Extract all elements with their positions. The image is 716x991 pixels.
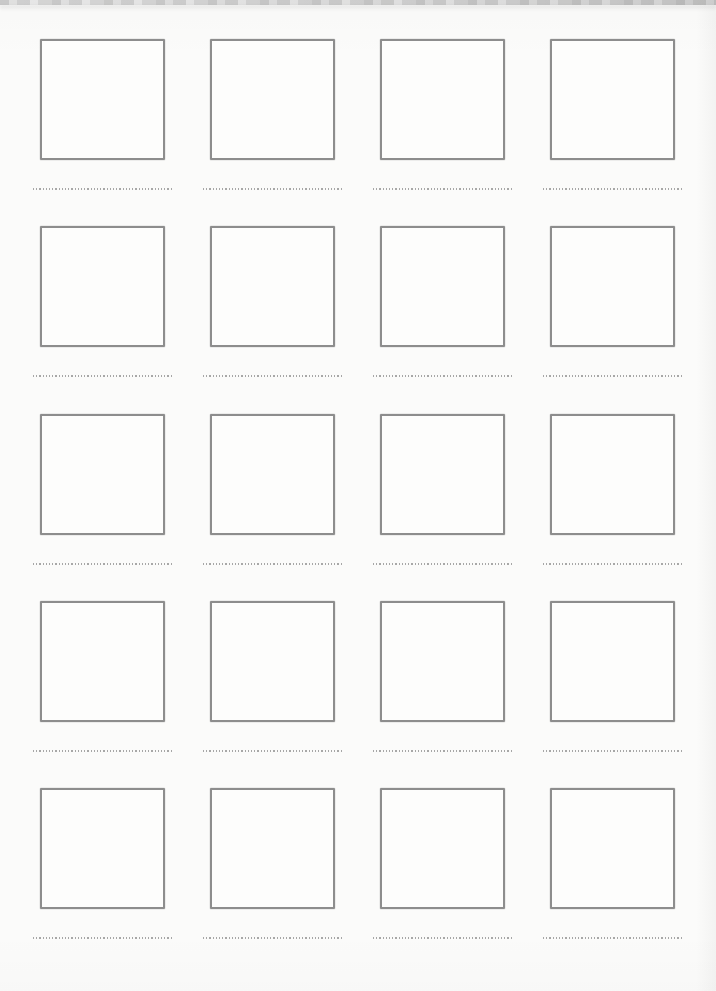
frame-cell (543, 39, 682, 190)
frame-box (40, 39, 165, 160)
frame-cell (203, 788, 342, 939)
caption-dotted-line (33, 375, 172, 377)
frame-cell (373, 226, 512, 377)
frame-box (380, 788, 505, 909)
frame-box (40, 788, 165, 909)
caption-dotted-line (543, 188, 682, 190)
caption-dotted-line (543, 937, 682, 939)
scanned-template-page (0, 0, 716, 991)
frame-cell (33, 414, 172, 565)
caption-dotted-line (543, 750, 682, 752)
frame-box (380, 414, 505, 535)
frame-box (380, 39, 505, 160)
frame-cell (33, 788, 172, 939)
frame-cell (33, 601, 172, 752)
frame-box (40, 414, 165, 535)
caption-dotted-line (203, 750, 342, 752)
frame-box (210, 414, 335, 535)
frame-cell (543, 226, 682, 377)
frame-box (210, 601, 335, 722)
frame-cell (373, 788, 512, 939)
caption-dotted-line (33, 937, 172, 939)
frame-cell (543, 601, 682, 752)
caption-dotted-line (373, 937, 512, 939)
frame-cell (373, 39, 512, 190)
caption-dotted-line (203, 937, 342, 939)
frame-box (210, 39, 335, 160)
frame-box (40, 601, 165, 722)
frame-box (380, 601, 505, 722)
frame-cell (33, 226, 172, 377)
frame-cell (543, 414, 682, 565)
frame-box (550, 226, 675, 347)
frame-box (40, 226, 165, 347)
scan-edge-top-fade (0, 5, 716, 11)
frame-box (210, 226, 335, 347)
frame-box (380, 226, 505, 347)
frame-cell (203, 601, 342, 752)
frame-box (550, 788, 675, 909)
caption-dotted-line (373, 188, 512, 190)
caption-dotted-line (203, 375, 342, 377)
caption-dotted-line (203, 563, 342, 565)
frame-box (550, 39, 675, 160)
frame-cell (203, 39, 342, 190)
caption-dotted-line (373, 375, 512, 377)
caption-dotted-line (33, 563, 172, 565)
caption-dotted-line (33, 750, 172, 752)
caption-dotted-line (373, 563, 512, 565)
frame-cell (33, 39, 172, 190)
frame-grid (33, 39, 682, 939)
frame-cell (373, 601, 512, 752)
frame-cell (203, 414, 342, 565)
scan-edge-right-shade (696, 0, 716, 991)
frame-box (550, 601, 675, 722)
frame-box (550, 414, 675, 535)
frame-box (210, 788, 335, 909)
caption-dotted-line (543, 563, 682, 565)
caption-dotted-line (33, 188, 172, 190)
caption-dotted-line (203, 188, 342, 190)
caption-dotted-line (543, 375, 682, 377)
frame-cell (543, 788, 682, 939)
caption-dotted-line (373, 750, 512, 752)
frame-cell (203, 226, 342, 377)
frame-cell (373, 414, 512, 565)
